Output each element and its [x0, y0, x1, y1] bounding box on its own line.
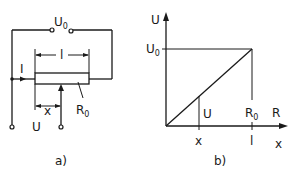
- x-tick-label: x: [195, 134, 202, 148]
- y-axis-arrow-icon: [163, 12, 169, 21]
- current-arrow-icon: [20, 77, 26, 82]
- r0-label: R0: [76, 103, 89, 119]
- potentiometer-figure: U0 I l x R0 U a) U U0 U R0 R x l x b): [0, 0, 291, 182]
- caption-b: b): [214, 154, 226, 168]
- u0-terminal-right: [69, 29, 73, 33]
- circuit-diagram: U0 I l x R0 U a): [10, 15, 112, 168]
- x-dim-arrow-right-icon: [55, 104, 61, 108]
- voltage-graph: U U0 U R0 R x l x b): [146, 12, 288, 168]
- l-dim-arrow-left-icon: [35, 53, 41, 57]
- output-terminal-left: [10, 125, 14, 129]
- x-axis-arrow-icon: [279, 123, 288, 129]
- r0-mark-label: R0: [245, 106, 258, 122]
- output-terminal-right: [59, 125, 63, 129]
- wiper-arrow-icon: [58, 84, 64, 91]
- y-axis-label: U: [151, 13, 160, 27]
- caption-a: a): [55, 154, 67, 168]
- length-label: l: [60, 48, 63, 62]
- x-axis-r-label: R: [272, 106, 280, 120]
- current-label: I: [20, 62, 24, 76]
- resistor-r0: [35, 73, 89, 84]
- u-at-x-label: U: [203, 107, 212, 121]
- x-dim-arrow-left-icon: [35, 104, 41, 108]
- x-axis-x-label: x: [275, 137, 282, 151]
- l-dim-arrow-right-icon: [83, 53, 89, 57]
- l-tick-label: l: [250, 134, 253, 148]
- u0-label: U0: [54, 15, 68, 31]
- output-voltage-label: U: [32, 120, 41, 134]
- u0-tick-label: U0: [146, 42, 160, 58]
- position-label: x: [44, 104, 51, 118]
